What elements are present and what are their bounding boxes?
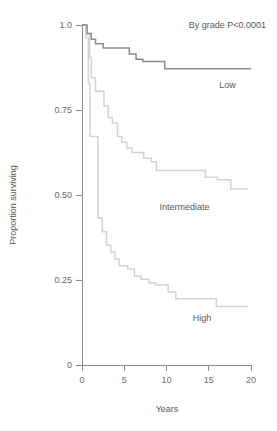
series-inline-labels: LowIntermediateHigh <box>160 80 237 324</box>
y-axis-tick-labels: 00.250.500.751.0 <box>54 20 72 370</box>
x-tick-label: 10 <box>161 375 171 385</box>
annotation-group: By grade P<0.0001 <box>189 20 266 30</box>
x-tick-label: 5 <box>122 375 127 385</box>
km-curves-group <box>82 25 251 307</box>
y-tick-label: 0.75 <box>54 105 72 115</box>
y-axis-title: Proportion surviving <box>8 165 18 245</box>
y-axis-tick-marks <box>76 25 82 365</box>
series-label-intermediate: Intermediate <box>160 202 210 212</box>
y-tick-label: 0 <box>67 360 72 370</box>
km-curve-low <box>82 25 251 69</box>
x-axis-tick-marks <box>82 365 251 371</box>
y-tick-label: 1.0 <box>59 20 72 30</box>
x-tick-label: 15 <box>204 375 214 385</box>
y-tick-label: 0.50 <box>54 190 72 200</box>
x-axis-tick-labels: 05101520 <box>79 375 256 385</box>
x-tick-label: 0 <box>79 375 84 385</box>
chart-annotation-pvalue: By grade P<0.0001 <box>189 20 266 30</box>
series-label-high: High <box>193 313 212 323</box>
x-tick-label: 20 <box>246 375 256 385</box>
series-label-low: Low <box>219 80 236 90</box>
km-curve-intermediate <box>82 25 248 189</box>
x-axis-title: Years <box>156 404 179 414</box>
survival-plot-svg: By grade P<0.0001 00.250.500.751.0 05101… <box>0 0 277 431</box>
survival-chart-figure: By grade P<0.0001 00.250.500.751.0 05101… <box>0 0 277 431</box>
y-tick-label: 0.25 <box>54 275 72 285</box>
